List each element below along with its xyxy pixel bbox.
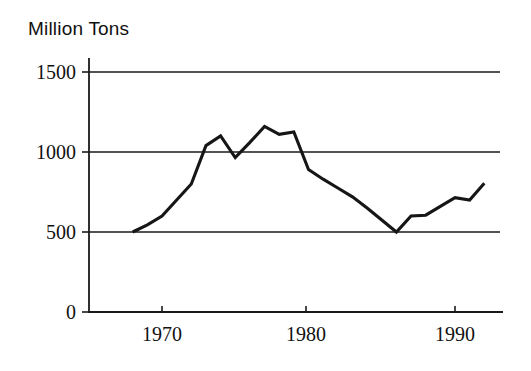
- y-axis-ticks: [82, 72, 89, 312]
- y-tick-label-1000: 1000: [36, 141, 76, 163]
- x-tick-label-1990: 1990: [435, 323, 475, 345]
- data-series-line: [133, 126, 485, 232]
- y-tick-label-500: 500: [46, 221, 76, 243]
- x-tick-label-1980: 1980: [286, 323, 326, 345]
- x-tick-label-1970: 1970: [142, 323, 182, 345]
- y-tick-label-0: 0: [66, 301, 76, 323]
- chart-figure: Million Tons 1500 1000: [0, 0, 531, 371]
- y-tick-label-1500: 1500: [36, 61, 76, 83]
- axis-spines: [89, 58, 503, 313]
- x-axis-tick-labels: 1970 1980 1990: [142, 323, 475, 345]
- y-axis-tick-labels: 1500 1000 500 0: [36, 61, 76, 323]
- line-chart-plot: 1500 1000 500 0 1970 1980 1990: [0, 0, 531, 371]
